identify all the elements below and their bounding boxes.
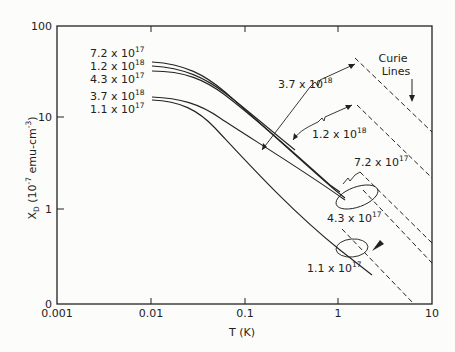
curie-lines-label: Lines bbox=[382, 65, 411, 78]
y-tick-label: 1 bbox=[45, 203, 52, 216]
arrow-down-icon bbox=[409, 95, 415, 102]
y-ticks bbox=[57, 117, 64, 209]
x-axis-title: T (K) bbox=[228, 326, 255, 339]
chart: 0.001 0.01 0.1 1 10 0 1 10 100 T (K) XD … bbox=[0, 0, 455, 352]
x-tick-label: 0.01 bbox=[139, 307, 164, 320]
svg-text:1.2 x 1018: 1.2 x 1018 bbox=[312, 126, 367, 141]
right-annotations: 3.7 x 1018 1.2 x 1018 7.2 x 1017 4.3 x 1… bbox=[278, 76, 409, 275]
svg-text:XD (10-7 emu-cm-3): XD (10-7 emu-cm-3) bbox=[24, 116, 41, 219]
svg-text:1.1 x 1017: 1.1 x 1017 bbox=[307, 260, 362, 275]
x-tick-label: 0.1 bbox=[236, 307, 254, 320]
left-legend: 7.2 x 1017 1.2 x 1018 4.3 x 1017 3.7 x 1… bbox=[90, 45, 145, 116]
y-axis-title: XD (10-7 emu-cm-3) bbox=[24, 116, 41, 219]
svg-text:4.3 x 1017: 4.3 x 1017 bbox=[327, 210, 382, 225]
curie-lines-label: Curie bbox=[379, 52, 408, 65]
y-tick-label: 0 bbox=[45, 298, 52, 311]
y-tick-label: 10 bbox=[38, 111, 52, 124]
svg-text:3.7 x 1018: 3.7 x 1018 bbox=[278, 76, 333, 91]
svg-text:7.2 x 1017: 7.2 x 1017 bbox=[354, 154, 409, 169]
x-tick-label: 1 bbox=[335, 307, 342, 320]
svg-text:4.3 x 1017: 4.3 x 1017 bbox=[90, 71, 145, 86]
svg-text:1.1 x 1017: 1.1 x 1017 bbox=[90, 101, 145, 116]
y-tick-label: 100 bbox=[31, 20, 52, 33]
x-tick-label: 10 bbox=[425, 307, 439, 320]
curve-1.1e17 bbox=[152, 100, 372, 275]
